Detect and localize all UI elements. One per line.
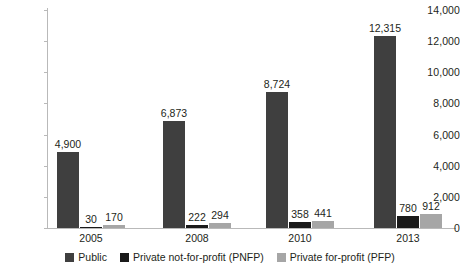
legend-swatch-icon: [277, 253, 286, 262]
chart-legend: PublicPrivate not-for-profit (PNFP)Priva…: [0, 252, 460, 263]
legend-label: Private not-for-profit (PNFP): [133, 252, 264, 263]
x-axis-line: [44, 228, 456, 229]
bar: [420, 214, 442, 228]
x-axis-tick-label: 2005: [66, 233, 116, 244]
bar-value-label: 441: [303, 208, 343, 219]
bar: [289, 222, 311, 228]
x-axis-tick-label: 2010: [275, 233, 325, 244]
bar-value-label: 6,873: [154, 108, 194, 119]
y-axis-tick-mark: [44, 197, 47, 198]
bar-value-label: 4,900: [48, 139, 88, 150]
legend-label: Private for-profit (PFP): [290, 252, 395, 263]
legend-item[interactable]: Private not-for-profit (PNFP): [120, 252, 264, 263]
x-axis-tick-label: 2008: [172, 233, 222, 244]
y-axis-tick-mark: [44, 41, 47, 42]
bar: [103, 225, 125, 228]
bar: [266, 92, 288, 228]
bar-chart: 14,00012,00010,0008,0006,0004,0002,0000 …: [0, 0, 460, 273]
bar: [209, 223, 231, 228]
y-axis-tick-mark: [44, 103, 47, 104]
y-axis-tick-mark: [44, 166, 47, 167]
bar-value-label: 170: [94, 212, 134, 223]
y-axis-tick-mark: [44, 135, 47, 136]
plot-area: 4,900301706,8732222948,72435844112,31578…: [48, 10, 452, 228]
y-axis-tick-mark: [44, 10, 47, 11]
legend-item[interactable]: Public: [65, 252, 107, 263]
bar: [312, 221, 334, 228]
legend-swatch-icon: [65, 253, 74, 262]
bar-value-label: 8,724: [257, 79, 297, 90]
bar-value-label: 912: [411, 201, 451, 212]
legend-item[interactable]: Private for-profit (PFP): [277, 252, 395, 263]
x-axis-tick-label: 2013: [383, 233, 433, 244]
legend-label: Public: [78, 252, 107, 263]
y-axis-tick-mark: [44, 228, 47, 229]
bar: [397, 216, 419, 228]
bar: [80, 227, 102, 229]
y-axis-tick-mark: [44, 72, 47, 73]
bar-value-label: 12,315: [365, 23, 405, 34]
bar: [374, 36, 396, 228]
bar-value-label: 294: [200, 210, 240, 221]
legend-swatch-icon: [120, 253, 129, 262]
bar: [186, 225, 208, 228]
